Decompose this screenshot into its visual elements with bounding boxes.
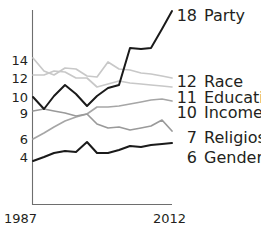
line-chart: 14 12 10 9 6 4 1987 2012 18 Party 12 Rac… bbox=[0, 0, 261, 233]
series-line-race bbox=[33, 58, 172, 78]
x-tick-label-end: 2012 bbox=[153, 212, 186, 225]
y-tick-label-14: 14 bbox=[2, 54, 28, 67]
series-line-income bbox=[33, 99, 172, 139]
legend-value-income: 10 bbox=[175, 103, 197, 122]
y-tick-label-6: 6 bbox=[2, 133, 28, 146]
series-lines bbox=[33, 11, 172, 161]
y-tick-label-10: 10 bbox=[2, 91, 28, 104]
legend-value-gender: 6 bbox=[175, 148, 197, 167]
y-tick-label-12: 12 bbox=[2, 72, 28, 85]
legend-label-gender: Gender bbox=[204, 148, 261, 167]
y-tick-label-4: 4 bbox=[2, 151, 28, 164]
legend-label-income: Income bbox=[204, 103, 261, 122]
legend-label-religiosity: Religiosity bbox=[204, 128, 261, 147]
x-tick-label-start: 1987 bbox=[4, 212, 37, 225]
legend-label-party: Party bbox=[204, 6, 245, 25]
series-line-gender bbox=[33, 142, 172, 161]
series-line-party bbox=[33, 11, 172, 109]
y-tick-label-9: 9 bbox=[2, 107, 28, 120]
legend-value-religiosity: 7 bbox=[175, 128, 197, 147]
legend-value-party: 18 bbox=[175, 6, 197, 25]
